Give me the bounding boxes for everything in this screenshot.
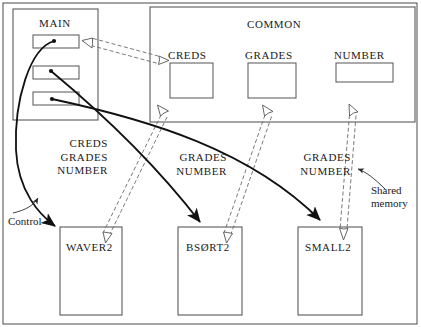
subprogram-label-waver2: WAVER2 xyxy=(66,241,113,253)
main-title: MAIN xyxy=(39,17,71,29)
common-var-box-grades xyxy=(248,63,296,98)
diagram-canvas: MAIN COMMON CREDS GRADES NUMBER WAVER2 B… xyxy=(0,0,421,327)
flow-label-line: NUMBER xyxy=(140,165,227,179)
common-var-label-grades: GRADES xyxy=(245,49,293,61)
control-flow-curves xyxy=(16,39,320,226)
flow-label-group-bsort2: GRADES NUMBER xyxy=(140,151,227,178)
common-title: COMMON xyxy=(247,18,301,30)
common-var-label-number: NUMBER xyxy=(334,49,385,61)
shared-memory-line-2: memory xyxy=(371,197,408,210)
subprogram-label-bsort2: BSØRT2 xyxy=(186,241,230,253)
common-var-box-number xyxy=(336,63,393,82)
subprogram-label-small2: SMALL2 xyxy=(305,241,351,253)
shared-memory-line-1: Shared xyxy=(371,184,408,197)
shared-memory-arrow-main-creds xyxy=(82,38,169,65)
flow-label-line: CREDS xyxy=(24,137,108,151)
main-slot-2 xyxy=(33,66,79,79)
flow-label-line: NUMBER xyxy=(24,164,108,178)
shared-memory-annotation: Shared memory xyxy=(371,184,408,210)
common-var-box-creds xyxy=(170,63,213,98)
flow-label-line: NUMBER xyxy=(264,165,351,179)
flow-label-line: GRADES xyxy=(140,151,227,165)
flow-label-line: GRADES xyxy=(24,151,108,165)
common-var-label-creds: CREDS xyxy=(168,49,206,61)
flow-label-line: GRADES xyxy=(264,151,351,165)
flow-label-group-small2: GRADES NUMBER xyxy=(264,151,351,178)
control-annotation: Control xyxy=(8,215,42,228)
flow-label-group-waver2: CREDS GRADES NUMBER xyxy=(24,137,108,178)
